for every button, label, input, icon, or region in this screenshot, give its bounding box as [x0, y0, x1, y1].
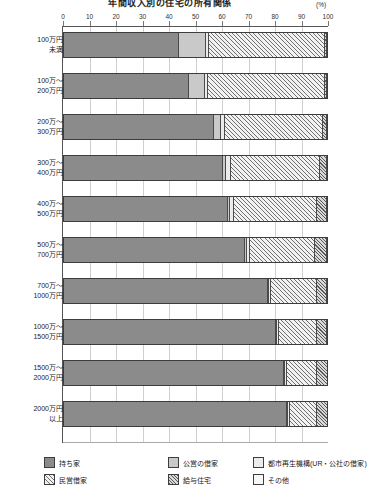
x-tick-label: 90	[298, 13, 305, 20]
bar-row	[0, 196, 265, 222]
x-tick-mark	[196, 21, 197, 26]
bar-segment-public	[178, 33, 205, 57]
x-tick-mark	[249, 21, 250, 26]
stacked-bar[interactable]	[63, 319, 328, 345]
stacked-bar[interactable]	[63, 360, 328, 386]
legend-swatch-other	[253, 474, 264, 485]
bar-segment-own	[64, 279, 267, 303]
bar-segment-other	[326, 156, 327, 180]
bar-segment-private	[278, 320, 316, 344]
bar-segment-private	[286, 361, 317, 385]
bar-segment-own	[64, 156, 222, 180]
x-tick-label: 100	[323, 13, 334, 20]
bar-segment-other	[326, 238, 327, 262]
legend-label: その他	[268, 475, 289, 485]
legend-swatch-public	[168, 457, 179, 468]
stacked-bar[interactable]	[63, 401, 328, 427]
x-tick-mark	[275, 21, 276, 26]
bar-segment-company	[314, 238, 326, 262]
bar-segment-own	[64, 115, 213, 139]
bar-segment-company	[316, 402, 326, 426]
bar-row	[0, 278, 265, 304]
x-tick-mark	[169, 21, 170, 26]
bar-segment-company	[316, 361, 326, 385]
bar-segment-other	[327, 361, 328, 385]
x-tick-label: 20	[112, 13, 119, 20]
bar-row	[0, 114, 265, 140]
bar-row	[0, 237, 265, 263]
stacked-bar[interactable]	[63, 237, 328, 263]
legend-swatch-ur	[253, 457, 264, 468]
bar-segment-company	[319, 156, 326, 180]
bar-segment-private	[249, 238, 314, 262]
bar-segment-own	[64, 197, 227, 221]
bar-row	[0, 32, 265, 58]
axis-unit-label: (%)	[316, 1, 326, 8]
legend-item-company[interactable]: 給与住宅	[168, 474, 211, 485]
bar-segment-private	[224, 115, 322, 139]
bar-segment-other	[326, 74, 327, 98]
legend-swatch-private	[44, 474, 55, 485]
x-tick-label: 10	[86, 13, 93, 20]
bar-segment-own	[64, 238, 244, 262]
bar-segment-other	[326, 197, 327, 221]
x-axis-bottom-line	[63, 442, 328, 443]
x-tick-mark	[90, 21, 91, 26]
legend-item-public[interactable]: 公営の借家	[168, 457, 218, 468]
x-tick-label: 40	[165, 13, 172, 20]
legend-swatch-own	[44, 457, 55, 468]
bar-segment-other	[326, 320, 327, 344]
bar-segment-other	[326, 279, 327, 303]
stacked-bar[interactable]	[63, 155, 328, 181]
bar-segment-company	[316, 320, 327, 344]
bar-segment-private	[233, 197, 317, 221]
x-tick-mark	[222, 21, 223, 26]
bar-segment-company	[316, 197, 325, 221]
bar-segment-own	[64, 33, 178, 57]
x-tick-label: 0	[61, 13, 65, 20]
stacked-bar[interactable]	[63, 114, 328, 140]
stacked-bar[interactable]	[63, 196, 328, 222]
stacked-bar[interactable]	[63, 278, 328, 304]
legend-label: 給与住宅	[183, 475, 211, 485]
bar-segment-other	[327, 402, 328, 426]
bar-segment-own	[64, 402, 286, 426]
bar-row	[0, 401, 265, 427]
stacked-bar[interactable]	[63, 32, 328, 58]
x-tick-label: 30	[139, 13, 146, 20]
page-title: 年間収入別の住宅の所有関係	[0, 0, 340, 9]
x-tick-mark	[116, 21, 117, 26]
bar-segment-private	[230, 156, 319, 180]
x-tick-label: 50	[192, 13, 199, 20]
bar-row	[0, 155, 265, 181]
chart-legend: 持ち家公営の借家都市再生機構(UR・公社の借家)民営借家給与住宅その他	[0, 455, 340, 497]
bar-segment-company	[316, 279, 327, 303]
legend-item-private[interactable]: 民営借家	[44, 474, 87, 485]
bar-segment-private	[289, 402, 317, 426]
bar-segment-other	[326, 115, 327, 139]
bar-segment-private	[208, 33, 325, 57]
x-tick-mark	[302, 21, 303, 26]
bar-row	[0, 73, 265, 99]
x-tick-label: 70	[245, 13, 252, 20]
bar-segment-private	[270, 279, 316, 303]
legend-item-own[interactable]: 持ち家	[44, 457, 80, 468]
bar-segment-other	[326, 33, 327, 57]
x-tick-label: 80	[271, 13, 278, 20]
x-tick-mark	[143, 21, 144, 26]
legend-item-ur[interactable]: 都市再生機構(UR・公社の借家)	[253, 457, 367, 468]
bar-segment-own	[64, 74, 188, 98]
x-tick-mark	[63, 21, 64, 26]
stacked-bar[interactable]	[63, 73, 328, 99]
x-tick-mark	[328, 21, 329, 26]
bar-segment-private	[207, 74, 325, 98]
legend-swatch-company	[168, 474, 179, 485]
bar-segment-own	[64, 361, 283, 385]
bar-row	[0, 360, 265, 386]
bar-segment-public	[213, 115, 220, 139]
legend-label: 都市再生機構(UR・公社の借家)	[268, 458, 367, 468]
legend-label: 民営借家	[59, 475, 87, 485]
legend-item-other[interactable]: その他	[253, 474, 289, 485]
bar-row	[0, 319, 265, 345]
